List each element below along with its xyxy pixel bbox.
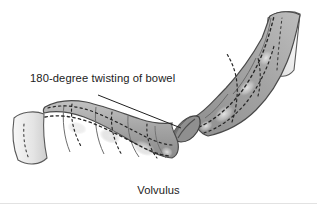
distal-limb-group: [193, 12, 300, 136]
volvulus-figure: 180-degree twisting of bowel Volvulus: [0, 0, 317, 209]
baseline-rule: [0, 203, 317, 204]
volvulus-illustration: [0, 0, 317, 209]
callout-label: 180-degree twisting of bowel: [30, 72, 175, 85]
lower-highlight-1: [66, 120, 88, 136]
proximal-limb-group: [13, 101, 178, 164]
proximal-cut-end-shape: [13, 112, 47, 164]
figure-caption: Volvulus: [0, 184, 317, 196]
